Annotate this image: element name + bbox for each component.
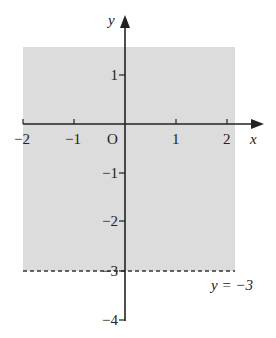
x-tick-label: 1 [172, 131, 180, 147]
x-axis-arrow-icon [251, 119, 264, 129]
x-axis-label: x [249, 131, 257, 147]
boundary-line-label: y = −3 [209, 277, 253, 293]
y-tick-label: −2 [102, 213, 118, 229]
inequality-graph: y x O −2 −1 1 2 1 −1 −2 −3 −4 y = −3 [0, 0, 276, 338]
y-axis-label: y [106, 12, 115, 28]
x-tick-label: −1 [65, 131, 81, 147]
y-tick-label: −3 [102, 263, 118, 279]
shaded-region [23, 47, 235, 271]
origin-label: O [107, 131, 118, 147]
x-tick-label: −2 [14, 131, 30, 147]
y-axis-arrow-icon [120, 15, 130, 28]
y-tick-label: −4 [102, 312, 118, 328]
y-tick-label: −1 [102, 165, 118, 181]
x-tick-label: 2 [223, 131, 231, 147]
y-tick-label: 1 [111, 67, 119, 83]
